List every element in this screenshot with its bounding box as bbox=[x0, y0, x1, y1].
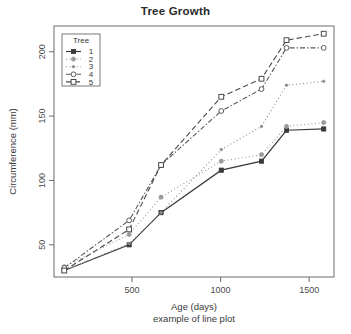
data-point-tree-4 bbox=[259, 87, 264, 92]
data-point-tree-2 bbox=[127, 232, 131, 236]
data-point-tree-4 bbox=[127, 218, 132, 223]
data-point-tree-2 bbox=[219, 159, 223, 163]
data-point-tree-1 bbox=[219, 168, 223, 172]
data-point-tree-3 bbox=[160, 211, 163, 214]
series-line-tree-2 bbox=[64, 123, 323, 267]
legend-symbol-tree-2 bbox=[71, 57, 75, 61]
data-point-tree-4 bbox=[284, 45, 289, 50]
x-axis-sublabel: example of line plot bbox=[153, 313, 235, 324]
x-axis-label: Age (days) bbox=[171, 301, 217, 312]
data-point-tree-3 bbox=[285, 84, 288, 87]
legend-symbol-tree-1 bbox=[71, 49, 75, 53]
line-plot-canvas: 5001000150050100150200Age (days)example … bbox=[0, 0, 351, 334]
chart-figure: Tree Growth 5001000150050100150200Age (d… bbox=[0, 0, 351, 334]
data-point-tree-5 bbox=[284, 38, 289, 43]
data-point-tree-5 bbox=[127, 227, 132, 232]
series-line-tree-4 bbox=[64, 48, 323, 268]
data-point-tree-5 bbox=[321, 31, 326, 36]
data-point-tree-3 bbox=[128, 242, 131, 245]
data-point-tree-5 bbox=[259, 76, 264, 81]
data-point-tree-2 bbox=[159, 195, 163, 199]
y-axis-tick-label: 100 bbox=[37, 173, 47, 188]
data-point-tree-3 bbox=[220, 148, 223, 151]
data-point-tree-5 bbox=[62, 268, 67, 273]
legend-symbol-tree-3 bbox=[72, 65, 75, 68]
x-axis-tick-label: 500 bbox=[124, 285, 139, 295]
data-point-tree-1 bbox=[322, 127, 326, 131]
y-axis-tick-label: 200 bbox=[37, 44, 47, 59]
legend-title: Tree bbox=[73, 36, 90, 45]
data-point-tree-2 bbox=[322, 120, 326, 124]
x-axis-tick-label: 1000 bbox=[211, 285, 231, 295]
x-axis-tick-label: 1500 bbox=[299, 285, 319, 295]
data-point-tree-5 bbox=[159, 163, 164, 168]
plot-area: 5001000150050100150200Age (days)example … bbox=[7, 26, 334, 324]
data-point-tree-5 bbox=[219, 94, 224, 99]
series-line-tree-3 bbox=[64, 81, 323, 270]
legend-label-tree-5: 5 bbox=[89, 78, 94, 87]
data-point-tree-2 bbox=[284, 124, 288, 128]
y-axis-label: Circumference (mm) bbox=[7, 108, 18, 195]
data-point-tree-3 bbox=[322, 80, 325, 83]
data-point-tree-4 bbox=[219, 109, 224, 114]
series-line-tree-5 bbox=[64, 34, 323, 271]
series-line-tree-1 bbox=[64, 129, 323, 271]
data-point-tree-1 bbox=[259, 159, 263, 163]
data-point-tree-3 bbox=[260, 125, 263, 128]
legend-symbol-tree-5 bbox=[71, 80, 76, 85]
y-axis-tick-label: 150 bbox=[37, 109, 47, 124]
data-point-tree-2 bbox=[259, 153, 263, 157]
data-point-tree-4 bbox=[321, 45, 326, 50]
legend-symbol-tree-4 bbox=[71, 72, 76, 77]
y-axis-tick-label: 50 bbox=[37, 240, 47, 250]
